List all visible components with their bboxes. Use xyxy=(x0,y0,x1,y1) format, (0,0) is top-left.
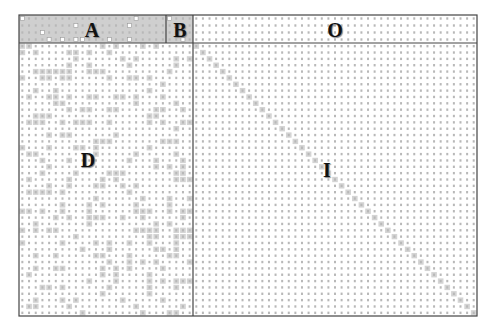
block-label-i: I xyxy=(323,160,331,180)
matrix-grid xyxy=(0,0,496,332)
block-label-b: B xyxy=(173,20,186,40)
block-label-o: O xyxy=(327,20,343,40)
block-label-a: A xyxy=(85,20,99,40)
block-label-d: D xyxy=(81,150,95,170)
